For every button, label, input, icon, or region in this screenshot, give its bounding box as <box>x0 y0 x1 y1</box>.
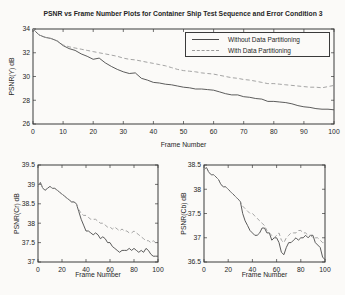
figure: 0102030405060708090100262830323402040608… <box>0 0 345 295</box>
x-axis-label-top: Frame Number <box>33 141 334 148</box>
y-tick-label: 39 <box>27 181 35 188</box>
x-tick-label: 30 <box>120 128 128 135</box>
series-dashed-chart-2 <box>204 167 325 242</box>
x-tick-label: 90 <box>300 128 308 135</box>
x-axis-label-bottom-left: Frame Number <box>38 271 158 278</box>
y-axis-label-psnr-y: PSNR(Y) dB <box>8 37 17 117</box>
y-axis-label-psnr-cr: PSNR(Cr) dB <box>13 174 22 254</box>
y-tick-label: 38.5 <box>188 161 201 168</box>
solid-line-icon <box>192 39 219 40</box>
x-tick-label: 10 <box>59 128 67 135</box>
y-tick-label: 37.5 <box>22 239 35 246</box>
y-tick-label: 30 <box>22 73 30 80</box>
x-tick-label: 80 <box>270 128 278 135</box>
y-tick-label: 37.5 <box>188 210 201 217</box>
chart-2: 02040608010036.53737.53838.5 <box>188 161 331 272</box>
x-tick-label: 20 <box>89 128 97 135</box>
series-solid-chart-1 <box>38 183 158 257</box>
y-tick-label: 39.5 <box>22 161 35 168</box>
x-tick-label: 50 <box>180 128 188 135</box>
series-solid-chart-2 <box>204 167 325 259</box>
axes-box-1 <box>38 165 158 262</box>
x-tick-label: 100 <box>328 128 340 135</box>
axes-box-2 <box>204 165 325 262</box>
x-tick-label: 60 <box>210 128 218 135</box>
y-tick-label: 38 <box>193 186 201 193</box>
y-axis-label-psnr-cb: PSNR(Cb) dB <box>180 174 189 254</box>
y-tick-label: 38 <box>27 220 35 227</box>
figure-title: PSNR vs Frame Number Plots for Container… <box>28 10 338 17</box>
x-tick-label: 70 <box>240 128 248 135</box>
legend-label-with-dp: With Data Partitioning <box>228 47 291 54</box>
chart-1: 0204060801003737.53838.53939.5 <box>22 161 164 272</box>
y-tick-label: 37 <box>27 258 35 265</box>
y-tick-label: 32 <box>22 49 30 56</box>
x-tick-label: 0 <box>31 128 35 135</box>
y-tick-label: 36.5 <box>188 258 201 265</box>
x-tick-label: 40 <box>150 128 158 135</box>
y-tick-label: 38.5 <box>22 200 35 207</box>
y-tick-label: 28 <box>22 97 30 104</box>
legend-entry-with-dp: With Data Partitioning <box>192 46 329 55</box>
y-tick-label: 26 <box>22 120 30 127</box>
y-tick-label: 34 <box>22 25 30 32</box>
y-tick-label: 37 <box>193 234 201 241</box>
legend-entry-without-dp: Without Data Partitioning <box>192 35 329 44</box>
x-axis-label-bottom-right: Frame Number <box>204 271 325 278</box>
legend-label-without-dp: Without Data Partitioning <box>228 36 300 43</box>
legend: Without Data Partitioning With Data Part… <box>185 32 330 57</box>
dashed-line-icon <box>192 50 219 51</box>
